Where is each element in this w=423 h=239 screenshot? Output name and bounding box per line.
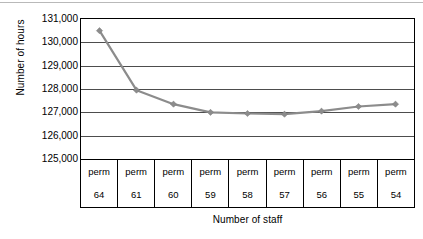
category-staff-type: perm bbox=[192, 160, 228, 184]
y-axis-tick-label: 125,000 bbox=[26, 154, 78, 164]
series-markers-group bbox=[96, 28, 398, 118]
plot-svg bbox=[81, 19, 414, 159]
y-axis-tick-labels: 131,000130,000129,000128,000127,000126,0… bbox=[26, 18, 78, 160]
category-staff-count: 56 bbox=[304, 184, 340, 208]
x-axis-title: Number of staff bbox=[80, 214, 415, 225]
category-staff-type: perm bbox=[378, 160, 414, 184]
y-axis-tick-label: 126,000 bbox=[26, 131, 78, 141]
category-column: perm58 bbox=[229, 160, 266, 207]
category-staff-type: perm bbox=[118, 160, 154, 184]
category-staff-type: perm bbox=[155, 160, 191, 184]
y-axis-tick-label: 127,000 bbox=[26, 107, 78, 117]
category-column: perm54 bbox=[378, 160, 414, 207]
page-top-rule bbox=[0, 2, 423, 3]
data-point-marker bbox=[244, 110, 250, 116]
category-column: perm59 bbox=[192, 160, 229, 207]
y-axis-tick-label: 130,000 bbox=[26, 37, 78, 47]
category-column: perm60 bbox=[155, 160, 192, 207]
plot-area bbox=[80, 18, 415, 160]
gridlines-group bbox=[81, 43, 414, 137]
data-point-marker bbox=[318, 108, 324, 114]
data-point-marker bbox=[207, 109, 213, 115]
category-staff-type: perm bbox=[341, 160, 377, 184]
category-staff-count: 55 bbox=[341, 184, 377, 208]
y-axis-tick-label: 131,000 bbox=[26, 14, 78, 24]
data-point-marker bbox=[355, 103, 361, 109]
y-axis-title: Number of hours bbox=[15, 0, 26, 118]
category-staff-type: perm bbox=[304, 160, 340, 184]
data-point-marker bbox=[392, 101, 398, 107]
category-staff-count: 64 bbox=[81, 184, 117, 208]
category-staff-type: perm bbox=[81, 160, 117, 184]
category-column: perm56 bbox=[304, 160, 341, 207]
y-axis-tick-label: 129,000 bbox=[26, 61, 78, 71]
category-staff-count: 58 bbox=[229, 184, 265, 208]
chart-figure: Number of hours 131,000130,000129,000128… bbox=[0, 0, 423, 239]
series-line bbox=[100, 31, 396, 115]
category-column: perm55 bbox=[341, 160, 378, 207]
category-column: perm61 bbox=[118, 160, 155, 207]
category-staff-count: 57 bbox=[267, 184, 303, 208]
category-column: perm64 bbox=[81, 160, 118, 207]
category-staff-count: 61 bbox=[118, 184, 154, 208]
category-staff-type: perm bbox=[267, 160, 303, 184]
data-point-marker bbox=[170, 101, 176, 107]
category-staff-count: 59 bbox=[192, 184, 228, 208]
category-staff-count: 54 bbox=[378, 184, 414, 208]
category-table: perm64perm61perm60perm59perm58perm57perm… bbox=[80, 160, 415, 208]
y-axis-tick-label: 128,000 bbox=[26, 84, 78, 94]
category-column: perm57 bbox=[267, 160, 304, 207]
category-staff-type: perm bbox=[229, 160, 265, 184]
category-staff-count: 60 bbox=[155, 184, 191, 208]
